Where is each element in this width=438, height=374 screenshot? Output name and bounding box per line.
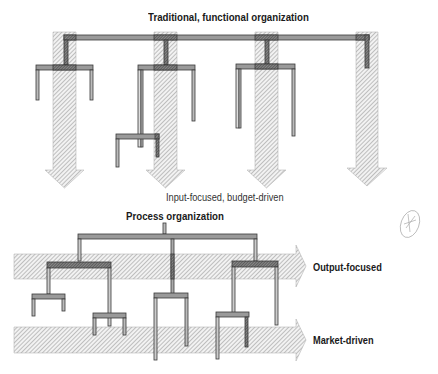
market-driven-arrow xyxy=(14,319,306,361)
organization-diagram xyxy=(0,0,438,374)
functional-hierarchy xyxy=(36,35,369,167)
functional-arrows xyxy=(45,32,387,188)
handwritten-mark-icon xyxy=(397,208,423,240)
